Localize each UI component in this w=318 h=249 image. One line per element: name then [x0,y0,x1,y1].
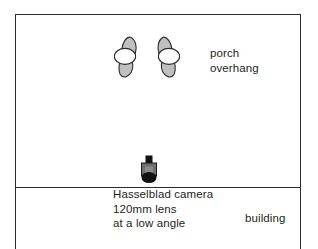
building-left-edge-line [15,187,16,249]
camera-icon [138,155,160,184]
porch-overhang-label: porch overhang [210,46,259,75]
porch-overhang-label-line-1: porch [210,46,259,61]
porch-overhang-label-line-2: overhang [210,61,259,76]
camera-notes-label-line-1: Hasselblad camera [113,187,213,202]
porch-right-edge-line [300,14,301,188]
footprint-right-icon [150,34,184,80]
camera-notes-label-line-2: 120mm lens [113,202,213,217]
building-right-edge-line [300,187,301,249]
diagram-canvas: porch overhang Hasselblad camera 120mm l… [0,0,318,249]
porch-left-edge-line [15,14,16,188]
footprint-left-icon [110,34,144,80]
building-label: building [245,211,285,226]
camera-notes-label: Hasselblad camera 120mm lens at a low an… [113,187,213,231]
porch-top-edge-line [15,14,301,15]
camera-notes-label-line-3: at a low angle [113,216,213,231]
